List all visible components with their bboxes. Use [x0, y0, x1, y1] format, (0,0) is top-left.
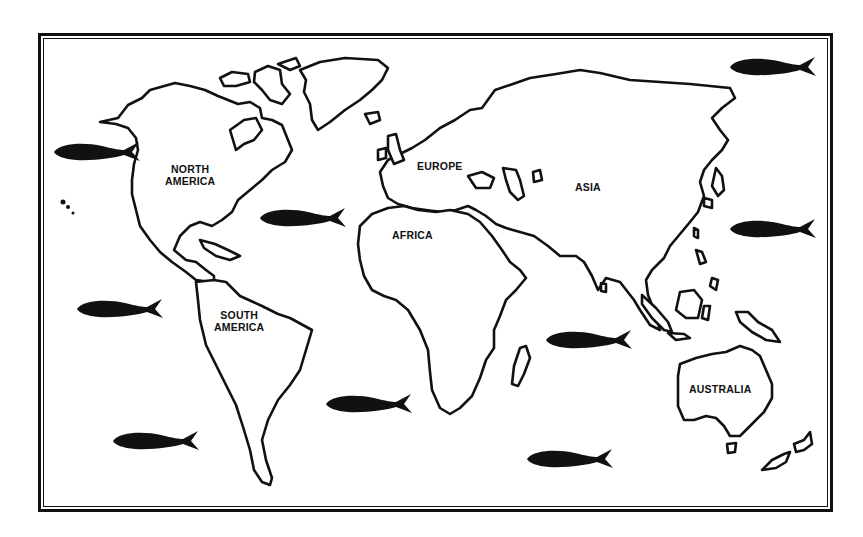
iceland	[365, 112, 380, 124]
label-north-america: NORTH AMERICA	[165, 163, 215, 187]
philippines	[710, 278, 718, 290]
label-south-america: SOUTH AMERICA	[214, 309, 264, 333]
tasmania	[727, 443, 736, 453]
borneo	[676, 290, 702, 318]
fish-icon	[77, 299, 163, 318]
label-europe: EUROPE	[417, 160, 463, 172]
philippines	[696, 250, 706, 264]
madagascar	[512, 346, 530, 386]
sulawesi	[702, 306, 710, 320]
arctic-islands	[278, 58, 300, 70]
continent-africa	[358, 206, 526, 414]
sri-lanka	[601, 283, 606, 292]
world-map	[0, 0, 863, 537]
hawaii-island	[66, 205, 70, 209]
aral-sea	[533, 170, 542, 182]
arctic-islands	[220, 72, 250, 86]
label-africa: AFRICA	[392, 229, 433, 241]
fish-icon	[527, 449, 613, 468]
java	[668, 333, 690, 340]
hawaii-island	[61, 200, 66, 205]
new-zealand	[762, 452, 790, 470]
caribbean-islands	[200, 240, 240, 260]
fish-icon	[260, 208, 346, 227]
label-australia: AUSTRALIA	[689, 383, 751, 395]
label-asia: ASIA	[575, 181, 601, 193]
fish-icon	[730, 219, 816, 238]
fish-icon	[546, 330, 632, 349]
new-zealand	[794, 432, 812, 452]
new-guinea	[736, 312, 780, 342]
fish-icon	[54, 142, 140, 161]
hawaii-island	[72, 212, 75, 215]
taiwan	[694, 228, 698, 238]
fish-icon	[326, 394, 412, 413]
fish-icon	[730, 57, 816, 76]
japan	[712, 168, 724, 196]
ireland	[378, 148, 386, 160]
fish-icon	[113, 431, 199, 450]
japan	[704, 198, 712, 208]
arctic-islands	[254, 66, 290, 104]
